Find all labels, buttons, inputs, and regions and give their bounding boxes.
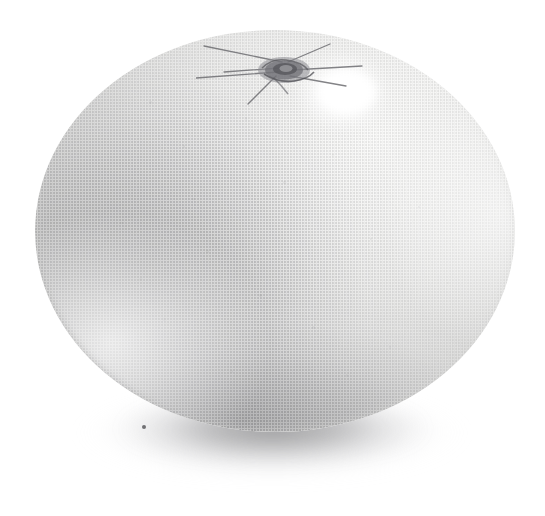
page-title: Orange fruit, whole xyxy=(0,21,1,22)
calyx-icon xyxy=(196,42,366,114)
calyx-stem-scar xyxy=(196,42,366,114)
image-description: Monochrome halftone engraving of a singl… xyxy=(0,16,1,17)
ink-speck xyxy=(142,425,146,429)
illustration-canvas: Orange fruit, whole Monochrome halftone … xyxy=(0,0,545,516)
